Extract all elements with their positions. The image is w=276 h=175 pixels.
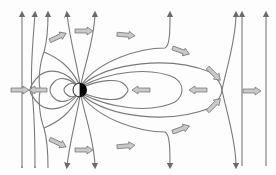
field-line-diagram [0, 0, 276, 175]
flow-arrows [11, 27, 261, 154]
dipole-icon [73, 83, 87, 97]
field-lines-canvas [0, 0, 276, 175]
